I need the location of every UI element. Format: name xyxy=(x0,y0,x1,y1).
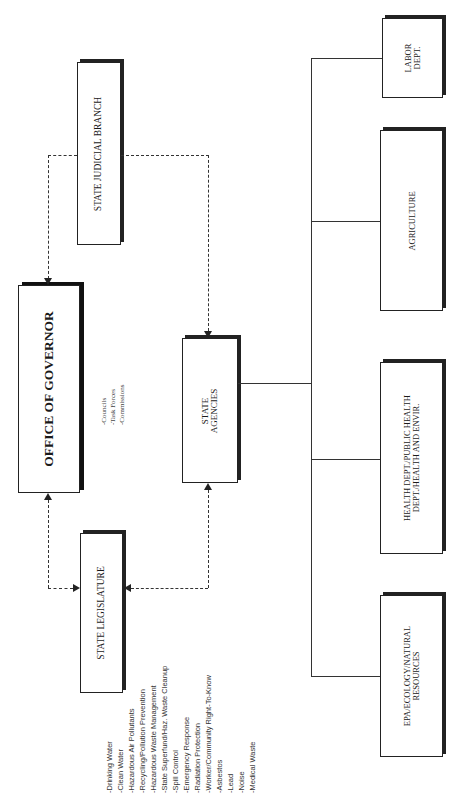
office-of-governor-box: OFFICE OF GOVERNOR xyxy=(18,285,80,493)
connector-legislature-agencies-h xyxy=(131,588,208,589)
state-agencies-box: STATE AGENCIES xyxy=(182,338,238,483)
topic-item: -Medical Waste xyxy=(247,666,258,793)
connector-trunk-labor xyxy=(311,58,382,59)
connector-agencies-trunk-h xyxy=(238,383,312,384)
arrow-down-icon xyxy=(44,278,52,285)
topic-item: -State Superfund/Haz. Waste Cleanup xyxy=(159,666,170,793)
state-judicial-branch-label: STATE JUDICIAL BRANCH xyxy=(94,96,104,210)
connector-trunk-v xyxy=(311,58,312,677)
topic-item: -Worker/Community Right-To-Know xyxy=(203,666,214,793)
connector-legislature-agencies-v xyxy=(208,490,209,588)
state-agencies-label: STATE AGENCIES xyxy=(201,388,220,433)
connector-governor-legislature-h xyxy=(48,588,73,589)
topic-item: -Hazardous Air Pollutants xyxy=(126,666,137,793)
topic-item: -Emergency Response xyxy=(181,666,192,793)
agriculture-box: AGRICULTURE xyxy=(380,130,443,311)
connector-governor-legislature-v xyxy=(48,500,49,588)
arrow-right-icon xyxy=(73,584,80,592)
connector-trunk-epa xyxy=(311,676,380,677)
note-task-forces: -Task Forces xyxy=(109,385,118,425)
agriculture-label: AGRICULTURE xyxy=(407,191,416,250)
labor-dept-box: LABOR DEPT. xyxy=(382,18,443,98)
office-of-governor-label: OFFICE OF GOVERNOR xyxy=(42,311,56,467)
note-councils: -Councils xyxy=(100,385,109,425)
epa-box: EPA/ECOLOGY/NATURAL RESOURCES xyxy=(380,595,443,757)
topic-item: -Asbestos xyxy=(214,666,225,793)
arrow-down-icon xyxy=(204,331,212,338)
arrow-up-icon xyxy=(44,493,52,500)
topic-item: -Lead xyxy=(225,666,236,793)
connector-governor-judicial-v xyxy=(48,155,49,279)
connector-judicial-agencies-v xyxy=(208,155,209,331)
connector-trunk-agriculture xyxy=(311,221,380,222)
topic-item: -Drinking Water xyxy=(104,666,115,793)
health-dept-box: HEALTH DEPT./PUBLIC HEALTH DEPT./HEALTH … xyxy=(380,362,443,554)
topic-item: -Recycling/Pollution Prevention xyxy=(137,666,148,793)
topic-item: -Hazardous Waste Management xyxy=(148,666,159,793)
state-judicial-branch-box: STATE JUDICIAL BRANCH xyxy=(77,62,121,245)
topic-item: -Radiation Protection xyxy=(192,666,203,793)
topic-item: -Spill Control xyxy=(170,666,181,793)
health-dept-label: HEALTH DEPT./PUBLIC HEALTH DEPT./HEALTH … xyxy=(403,395,421,521)
topic-item: -Noise xyxy=(236,666,247,793)
topic-item: -Clean Water xyxy=(115,666,126,793)
connector-governor-judicial-h xyxy=(48,155,77,156)
connector-judicial-agencies-h xyxy=(121,155,209,156)
note-commissions: -Commissions xyxy=(118,385,127,425)
connector-trunk-health xyxy=(311,459,380,460)
governor-notes: -Councils -Task Forces -Commissions xyxy=(100,355,130,425)
epa-label: EPA/ECOLOGY/NATURAL RESOURCES xyxy=(403,626,421,726)
arrow-up-icon xyxy=(204,483,212,490)
labor-dept-label: LABOR DEPT. xyxy=(404,44,422,73)
arrow-left-icon xyxy=(124,584,131,592)
state-legislature-label: STATE LEGISLATURE xyxy=(97,566,107,659)
